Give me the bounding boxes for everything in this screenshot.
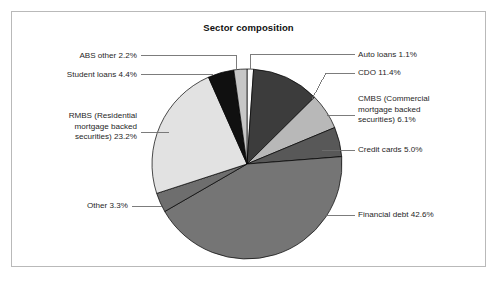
pie-chart-plot-area: Auto loans 1.1% CDO 11.4% CMBS (Commerci… — [12, 12, 487, 268]
callout-student-loans: Student loans 4.4% — [12, 70, 137, 81]
callout-rmbs-line-2: mortgage backed — [17, 122, 137, 133]
callout-auto-loans: Auto loans 1.1% — [358, 50, 417, 61]
callout-cdo: CDO 11.4% — [358, 68, 401, 79]
callout-abs-other: ABS other 2.2% — [12, 51, 137, 62]
callout-cmbs: CMBS (Commercial mortgage backed securit… — [358, 94, 476, 126]
pie-slices — [152, 69, 342, 259]
leader-line-cdo — [312, 73, 355, 99]
chart-panel: Sector composition — [11, 11, 486, 267]
scan-margin — [0, 274, 498, 286]
leader-line-auto-loans — [250, 55, 355, 70]
callout-rmbs-line-1: RMBS (Residential — [17, 111, 137, 122]
callout-rmbs: RMBS (Residential mortgage backed securi… — [17, 111, 137, 143]
callout-credit-cards: Credit cards 5.0% — [358, 145, 422, 156]
leader-line-abs-other — [141, 56, 237, 71]
callout-cmbs-line-2: mortgage backed — [358, 105, 476, 116]
callout-other: Other 3.3% — [12, 201, 128, 212]
callout-rmbs-line-3: securities) 23.2% — [17, 132, 137, 143]
callout-cmbs-line-3: securities) 6.1% — [358, 115, 476, 126]
callout-cmbs-line-1: CMBS (Commercial — [358, 94, 476, 105]
callout-financial-debt: Financial debt 42.6% — [358, 210, 434, 221]
